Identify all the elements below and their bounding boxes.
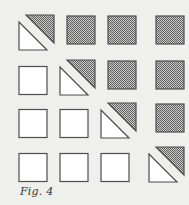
triangular-grid-diagram [0,0,189,205]
grid-cell-split [149,147,184,182]
grid-cell-white [19,110,47,138]
grid-cell-split [60,60,95,95]
grid-cell-shaded [156,104,184,132]
grid-cell-shaded [156,61,184,89]
figure-caption: Fig. 4 [20,185,53,198]
grid-cell-shaded [108,61,136,89]
grid-cell-split [19,15,54,50]
grid-cell-white [19,67,47,95]
grid-cell-white [60,110,88,138]
grid-cell-shaded [67,16,95,44]
figure: Fig. 4 [0,0,189,205]
grid-cell-split [101,103,136,138]
grid-cell-white [19,154,47,182]
grid-cell-white [101,154,129,182]
grid-cell-shaded [156,16,184,44]
grid-cell-shaded [108,16,136,44]
grid-cell-white [60,154,88,182]
